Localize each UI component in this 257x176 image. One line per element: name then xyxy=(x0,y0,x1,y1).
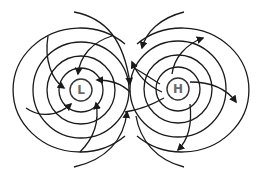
pressure-diagram: L H xyxy=(0,0,257,176)
low-center: L xyxy=(70,79,92,101)
high-label: H xyxy=(173,82,183,96)
low-label: L xyxy=(77,83,85,97)
high-center: H xyxy=(167,78,189,100)
